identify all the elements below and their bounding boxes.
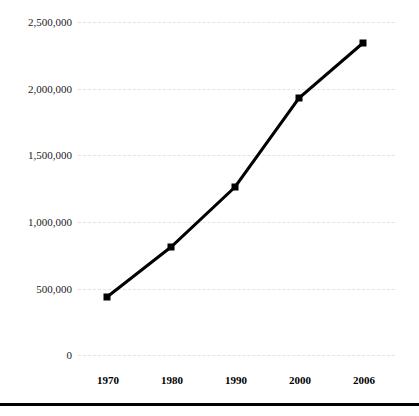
x-axis-tick-label-2000: 2000 <box>270 374 330 387</box>
series-line <box>107 43 363 297</box>
x-axis-tick-label-1990: 1990 <box>206 374 266 387</box>
x-axis-tick-label-2006: 2006 <box>334 374 394 387</box>
x-axis-tick-label-1970: 1970 <box>78 374 138 387</box>
data-series-layer <box>0 0 419 416</box>
x-axis-tick-label-1980: 1980 <box>142 374 202 387</box>
data-point-marker-2006 <box>360 40 367 47</box>
bottom-divider-rule <box>0 403 419 406</box>
line-chart: 2,500,000 2,000,000 1,500,000 1,000,000 … <box>0 0 419 416</box>
data-point-marker-1970 <box>104 294 111 301</box>
data-point-marker-1990 <box>232 184 239 191</box>
plot-area: 2,500,000 2,000,000 1,500,000 1,000,000 … <box>0 0 419 416</box>
data-point-marker-2000 <box>296 95 303 102</box>
data-point-marker-1980 <box>168 244 175 251</box>
